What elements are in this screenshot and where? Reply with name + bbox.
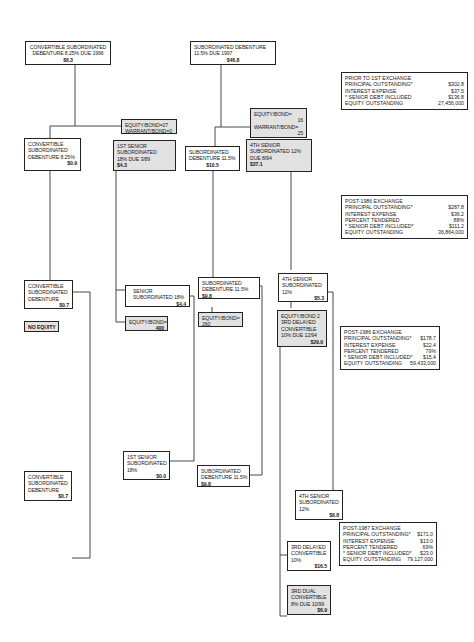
security-amount: $6.3 (29, 57, 107, 63)
security-amount: $4.4 (129, 301, 186, 307)
equity-bond-400: EQUITY/BOND= 400 (125, 316, 168, 331)
security-fourth-senior-sub-12-c: 4TH SENIOR SUBORDINATED 12% $6.8 (295, 490, 343, 520)
equity-warrant-ratio-2: EQUITY/BOND= 16 WARRANT/BOND= 25 (250, 108, 307, 138)
security-third-delayed-conv-1294: EQUITY/BOND 2 3RD DELAYED CONVERTIBLE 10… (277, 310, 327, 347)
stats-row: EQUITY OUTSTANDING59,433,000 (344, 360, 436, 366)
security-sub-deb-11-5: SUBORDINATED DEBENTURE 11.5% $10.5 (185, 146, 240, 171)
ratio-value: 400 (129, 325, 164, 331)
security-amount: $9.8 (201, 481, 246, 487)
security-line: DEBENTURE 11.5% (202, 286, 256, 292)
ratio-line: 25 (254, 130, 303, 136)
security-amount: $5.3 (282, 295, 324, 301)
ratio-line: WARRANT/BOND= (254, 124, 303, 130)
security-amount: $0.0 (127, 473, 166, 479)
security-amount: $9.8 (202, 293, 256, 299)
stats-prior-first-exchange: PRIOR TO 1ST EXCHANGE PRINCIPAL OUTSTAND… (341, 72, 468, 110)
security-third-dual-conv: 3RD DUAL CONVERTIBLE 8% DUE 10/99 $6.9 (287, 585, 331, 615)
security-sub-deb-11-5-b: SUBORDINATED DEBENTURE 11.5% $9.8 (198, 277, 260, 299)
stats-row: EQUITY OUTSTANDING36,864,000 (345, 229, 464, 235)
security-conv-sub-8-25: CONVERTIBLE SUBORDINATED DEBENTURE 8.25%… (24, 138, 81, 171)
stats-value: 27,456,000 (438, 100, 464, 106)
security-line: SUBORDINATED (28, 289, 69, 295)
ratio-line: WARRANT/BOND=0 (125, 128, 173, 134)
security-first-senior-sub-18-b: 1ST SENIOR SUBORDINATED 18% $0.0 (123, 451, 170, 480)
security-line: SUBORDINATED (127, 460, 166, 466)
security-amount: $10.5 (189, 162, 236, 168)
stats-value: 36,864,000 (438, 229, 464, 235)
equity-bond-260: EQUITY/BOND= 260 (198, 312, 243, 327)
security-sub-deb-11-5-c: SUBORDINATED DEBENTURE 11.5% $9.8 (197, 465, 250, 487)
security-amount: $16.5 (291, 563, 327, 569)
security-amount: $4.3 (117, 162, 172, 168)
stats-label: EQUITY OUTSTANDING (343, 556, 401, 562)
security-amount: $46.8 (194, 57, 272, 63)
stats-post-1986-exchange-a: POST-1986 EXCHANGE PRINCIPAL OUTSTANDING… (341, 195, 468, 239)
security-line: SUBORDINATED 18% (129, 294, 186, 300)
security-conv-sub-deb-2: CONVERTIBLE SUBORDINATED DEBENTURE $0.7 (24, 280, 73, 309)
security-amount: $0.7 (28, 302, 69, 308)
stats-row: EQUITY OUTSTANDING79,127,000 (343, 556, 433, 562)
stats-value: 59,433,000 (410, 360, 436, 366)
security-amount: $6.9 (291, 607, 327, 613)
security-conv-sub-debenture-1996: CONVERTIBLE SUBORDINATED DEBENTURE 8.25%… (25, 41, 111, 65)
stats-label: EQUITY OUTSTANDING (344, 360, 402, 366)
security-fourth-senior-sub-12-b: 4TH SENIOR SUBORDINATED 12% $5.3 (278, 273, 328, 302)
security-line: CONVERTIBLE (291, 550, 327, 556)
security-amount: $0.9 (28, 160, 77, 166)
stats-post-1987-exchange: POST-1987 EXCHANGE PRINCIPAL OUTSTANDING… (339, 522, 437, 566)
security-line: 10% DUE 12/94 (281, 332, 323, 338)
security-line: SUBORDINATED 12% (250, 148, 308, 154)
security-amount: $0.7 (28, 493, 68, 499)
security-amount: $29.0 (281, 339, 323, 345)
security-fourth-senior-sub-12: 4TH SENIOR SUBORDINATED 12% DUE 8/94 $37… (246, 139, 312, 172)
security-line: DEBENTURE 8.25% DUE 1996 (29, 50, 107, 56)
security-sub-debenture-1997: SUBORDINATED DEBENTURE 11.5% DUE 1997 $4… (190, 41, 276, 65)
stats-post-1986-exchange-b: POST-1986 EXCHANGE PRINCIPAL OUTSTANDING… (340, 326, 440, 370)
security-line: SUBORDINATED (28, 480, 68, 486)
no-equity-label: NO EQUITY (24, 321, 59, 332)
security-senior-sub-18: SENIOR SUBORDINATED 18% $4.4 (125, 285, 190, 307)
security-line: SUBORDINATED (282, 282, 324, 288)
stats-value: 79,127,000 (407, 556, 433, 562)
security-third-delayed-conv-10: 3RD DELAYED CONVERTIBLE 10% $16.5 (287, 541, 331, 571)
equity-warrant-ratio-1: EQUITY/BOND=27 WARRANT/BOND=0 (121, 119, 177, 134)
security-amount: $6.8 (299, 512, 339, 518)
security-conv-sub-deb-3: CONVERTIBLE SUBORDINATED DEBENTURE $0.7 (24, 471, 72, 501)
security-line: SUBORDINATED (299, 499, 339, 505)
ratio-line: 260 (202, 321, 239, 327)
stats-label: EQUITY OUTSTANDING (345, 100, 403, 106)
stats-row: EQUITY OUTSTANDING27,456,000 (345, 100, 464, 106)
stats-label: EQUITY OUTSTANDING (345, 229, 403, 235)
security-amount: $37.1 (250, 161, 308, 167)
security-line: DEBENTURE 11.5% (201, 474, 246, 480)
security-line: NO EQUITY (28, 324, 55, 330)
security-line: CONVERTIBLE (291, 594, 327, 600)
security-first-senior-sub-18: 1ST SENIOR SUBORDINATED 18% DUE 3/89 $4.… (113, 140, 176, 171)
security-line: DEBENTURE 11.5% (189, 155, 236, 161)
